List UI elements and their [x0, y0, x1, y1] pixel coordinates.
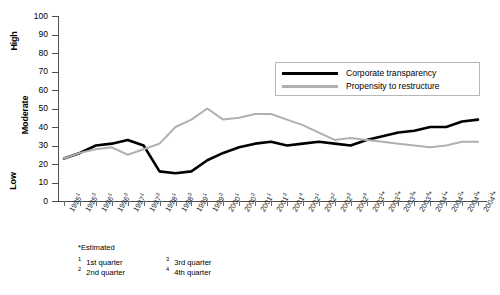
x-tick-mark — [462, 201, 463, 206]
x-tick-mark — [414, 201, 415, 206]
y-axis-band-label-low: Low — [8, 161, 18, 201]
x-tick-mark — [271, 201, 272, 206]
x-tick-mark — [160, 201, 161, 206]
x-tick-mark — [287, 201, 288, 206]
x-tick-mark — [207, 201, 208, 206]
x-tick-mark — [398, 201, 399, 206]
x-tick-mark — [96, 201, 97, 206]
y-tick-mark — [52, 201, 58, 202]
footnote-quarter-2: 2 2nd quarter — [78, 264, 125, 278]
y-tick-label: 70 — [26, 67, 48, 76]
y-tick-label: 30 — [26, 141, 48, 150]
plot-area — [58, 16, 486, 201]
footnote-text-4: 4th quarter — [174, 268, 211, 277]
x-tick-mark — [446, 201, 447, 206]
y-tick-label: 60 — [26, 86, 48, 95]
x-tick-mark — [80, 201, 81, 206]
footnote-marker-1: 1 — [78, 256, 81, 262]
x-tick-mark — [367, 201, 368, 206]
x-tick-mark — [319, 201, 320, 206]
y-tick-label: 90 — [26, 30, 48, 39]
x-tick-mark — [255, 201, 256, 206]
footnote-text-2: 2nd quarter — [86, 268, 125, 277]
legend-label-propensity-to-restructure: Propensity to restructure — [346, 80, 440, 92]
y-tick-label: 0 — [26, 197, 48, 206]
chart-legend: Corporate transparency Propensity to res… — [275, 62, 480, 96]
legend-label-corporate-transparency: Corporate transparency — [346, 67, 436, 79]
y-tick-label: 20 — [26, 160, 48, 169]
series-lines — [58, 16, 486, 201]
x-tick-mark — [112, 201, 113, 206]
footnote-quarter-4: 4 4th quarter — [166, 264, 211, 278]
x-tick-mark — [191, 201, 192, 206]
y-tick-label: 80 — [26, 49, 48, 58]
x-tick-mark — [223, 201, 224, 206]
x-tick-mark — [478, 201, 479, 206]
y-axis-band-label-moderate: Moderate — [20, 89, 30, 141]
x-tick-mark — [430, 201, 431, 206]
x-tick-mark — [128, 201, 129, 206]
footnote-marker-4: 4 — [166, 266, 169, 272]
x-tick-mark — [303, 201, 304, 206]
y-tick-label: 10 — [26, 178, 48, 187]
x-tick-mark — [383, 201, 384, 206]
series-line-propensity-to-restructure — [64, 109, 478, 159]
x-tick-mark — [64, 201, 65, 206]
x-tick-mark — [335, 201, 336, 206]
y-tick-label: 50 — [26, 104, 48, 113]
footnote-marker-2: 2 — [78, 266, 81, 272]
x-tick-mark — [144, 201, 145, 206]
footnote-marker-3: 3 — [166, 256, 169, 262]
y-tick-label: 40 — [26, 123, 48, 132]
x-tick-mark — [351, 201, 352, 206]
x-tick-mark — [176, 201, 177, 206]
y-axis-band-label-high: High — [9, 21, 19, 61]
legend-swatch-gray — [282, 85, 338, 88]
y-tick-label: 100 — [26, 12, 48, 21]
x-tick-mark — [239, 201, 240, 206]
legend-swatch-black — [282, 72, 338, 75]
footnote-estimated: *Estimated — [78, 243, 115, 254]
